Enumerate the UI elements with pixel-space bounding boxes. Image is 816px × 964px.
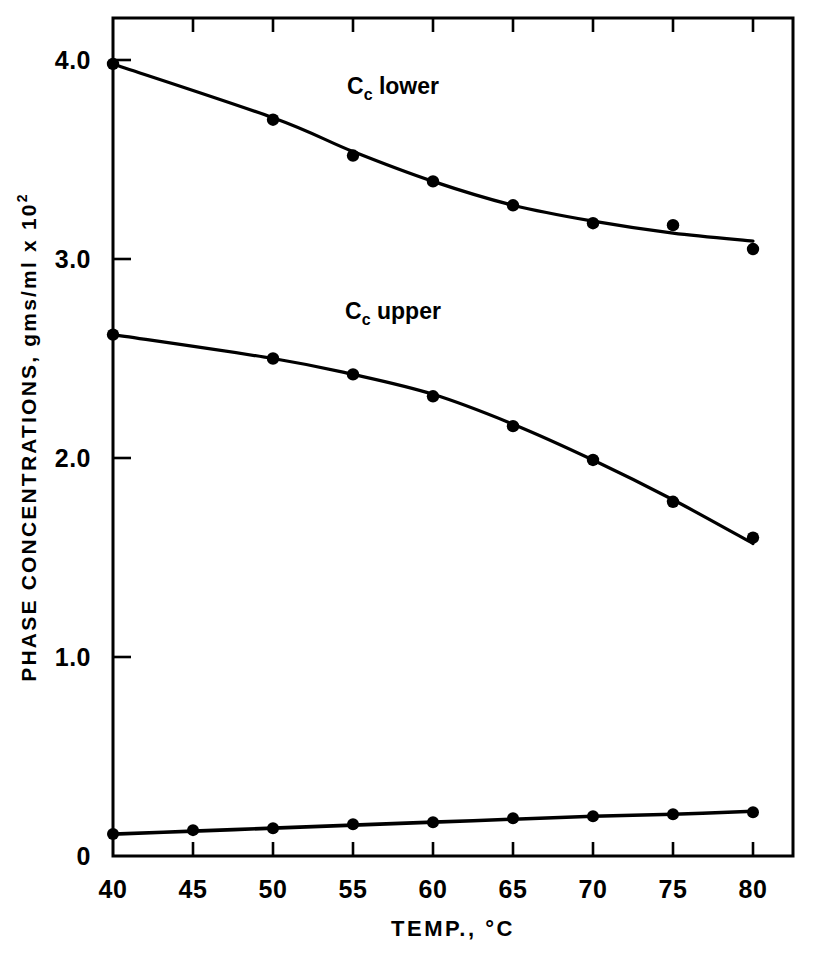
- y-axis-tick-labels: 01.02.03.04.0: [55, 46, 91, 870]
- data-point: [747, 806, 759, 818]
- data-point: [347, 818, 359, 830]
- plot-border: [113, 18, 793, 856]
- x-tick-label: 55: [339, 875, 368, 903]
- x-tick-label: 70: [579, 875, 608, 903]
- data-point-markers: [107, 58, 759, 840]
- x-tick-label: 80: [739, 875, 768, 903]
- data-point: [267, 352, 279, 364]
- data-point: [267, 114, 279, 126]
- data-point: [187, 824, 199, 836]
- data-point: [587, 454, 599, 466]
- data-point: [347, 368, 359, 380]
- data-point: [107, 828, 119, 840]
- data-point: [427, 816, 439, 828]
- data-point: [107, 58, 119, 70]
- y-tick-label: 2.0: [55, 444, 91, 472]
- data-point: [507, 199, 519, 211]
- data-point: [587, 217, 599, 229]
- plot-frame: [113, 18, 793, 856]
- y-tick-label: 4.0: [55, 46, 91, 74]
- data-point: [747, 531, 759, 543]
- x-tick-label: 65: [499, 875, 528, 903]
- data-point: [587, 810, 599, 822]
- data-point: [667, 808, 679, 820]
- data-point: [427, 175, 439, 187]
- x-axis-title: TEMP., °C: [391, 916, 515, 941]
- plot-canvas: 404550556065707580 01.02.03.04.0 Cc lowe…: [0, 0, 816, 964]
- data-point: [267, 822, 279, 834]
- y-tick-label: 0: [77, 842, 91, 870]
- x-tick-label: 50: [259, 875, 288, 903]
- data-point: [667, 496, 679, 508]
- series-annotations: Cc lowerCc upper: [345, 73, 441, 328]
- x-tick-label: 60: [419, 875, 448, 903]
- y-tick-label: 3.0: [55, 245, 91, 273]
- data-point: [667, 219, 679, 231]
- data-point: [507, 420, 519, 432]
- x-axis-tick-labels: 404550556065707580: [99, 875, 768, 903]
- y-axis-ticks: [113, 60, 131, 657]
- data-point: [507, 812, 519, 824]
- x-tick-label: 40: [99, 875, 128, 903]
- series-label: Cc lower: [347, 73, 439, 103]
- x-tick-label: 45: [179, 875, 208, 903]
- x-tick-label: 75: [659, 875, 688, 903]
- series-label: Cc upper: [345, 298, 441, 328]
- y-axis-title: PHASE CONCENTRATIONS, gms/ml x 102: [14, 192, 40, 681]
- y-tick-label: 1.0: [55, 643, 91, 671]
- data-point: [747, 243, 759, 255]
- chart-figure: 404550556065707580 01.02.03.04.0 Cc lowe…: [0, 0, 816, 964]
- data-point: [107, 328, 119, 340]
- data-point: [427, 390, 439, 402]
- data-point: [347, 149, 359, 161]
- series-curve: [113, 335, 753, 544]
- x-axis-ticks: [193, 18, 753, 856]
